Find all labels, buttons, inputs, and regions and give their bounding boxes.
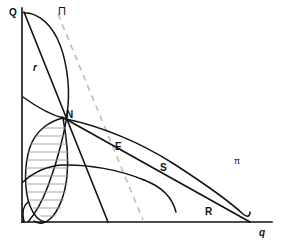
point-s-label: S xyxy=(160,163,167,173)
line-contract-nr xyxy=(62,117,250,222)
diagram-canvas xyxy=(0,0,281,242)
point-r-label: R xyxy=(205,207,212,217)
y-axis-label: Q xyxy=(9,8,17,18)
curve-lens-upper xyxy=(26,118,64,222)
curve-big-pi-label: Π xyxy=(58,6,66,17)
curve-small-pi-label: π xyxy=(234,157,240,166)
point-n-label: N xyxy=(66,110,73,120)
economics-diagram-figure: Q q Π r N E S R π xyxy=(0,0,281,242)
x-axis-label: q xyxy=(259,228,265,238)
curve-axis-hook xyxy=(23,202,28,222)
line-r-label: r xyxy=(33,63,37,73)
point-e-label: E xyxy=(115,142,122,152)
curve-s-tail xyxy=(144,180,176,212)
